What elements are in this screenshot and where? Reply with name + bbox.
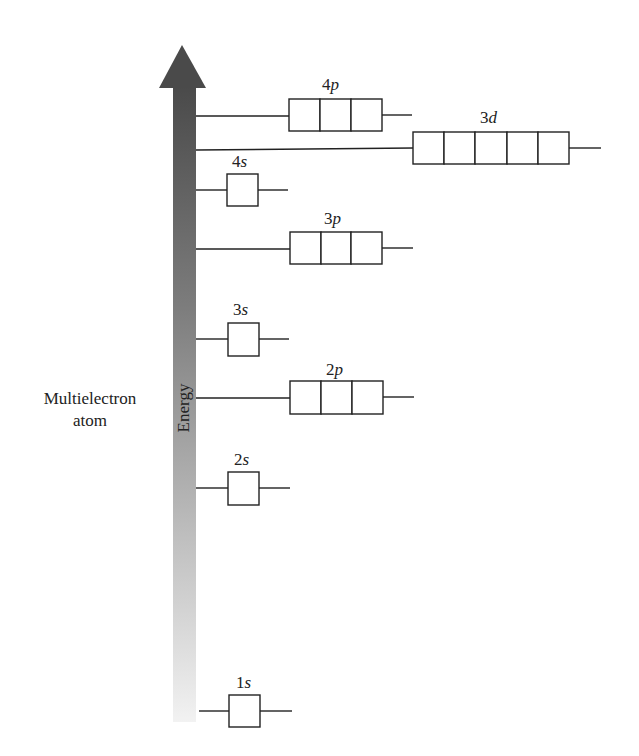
energy-axis-label: Energy: [174, 384, 194, 433]
orbital-energy-diagram: [0, 0, 639, 756]
orbital-3d: [196, 132, 601, 164]
label-3d: 3d: [480, 109, 497, 126]
label-3p: 3p: [324, 210, 341, 227]
orbital-3s: [196, 323, 289, 356]
multielectron-atom-label: Multielectron atom: [20, 388, 160, 432]
orbital-2p: [196, 381, 414, 414]
orbital-1s: [199, 695, 292, 727]
label-3s: 3s: [233, 301, 248, 318]
orbital-2s: [196, 472, 290, 505]
label-4p: 4p: [322, 76, 339, 93]
orbital-4s: [196, 174, 288, 206]
side-label-line1: Multielectron: [20, 388, 160, 410]
label-4s: 4s: [232, 153, 247, 170]
orbital-4p: [196, 99, 412, 131]
label-2p: 2p: [326, 361, 343, 378]
orbital-3p: [196, 232, 413, 264]
label-1s: 1s: [236, 674, 251, 691]
side-label-line2: atom: [20, 410, 160, 432]
label-2s: 2s: [234, 451, 249, 468]
